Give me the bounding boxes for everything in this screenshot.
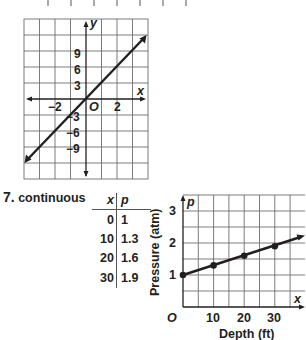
graph-2-x-title: Depth (ft) (219, 327, 275, 340)
graph-1-y-tick-9: 9 (74, 47, 81, 61)
header-x: x (92, 193, 117, 207)
header-p: p (117, 193, 151, 207)
graph-1: y x O −2 2 9 6 3 −3 −6 −9 (24, 16, 148, 179)
graph-1-y-tick-neg6: −6 (66, 126, 80, 140)
graph-1-x-tick-2: 2 (114, 100, 121, 114)
table-row: 30 1.9 (92, 268, 151, 287)
data-point-30 (272, 243, 279, 250)
cell-x: 20 (92, 251, 117, 265)
figure-canvas: y x O −2 2 9 6 3 −3 −6 −9 (0, 0, 305, 340)
graph-2-x-tick-30: 30 (267, 311, 281, 325)
graph-1-x-tick-neg2: −2 (48, 100, 62, 114)
cell-p: 1.9 (117, 271, 151, 285)
data-point-10 (210, 262, 217, 269)
graph-1-y-tick-6: 6 (74, 63, 81, 77)
graph-2-x-tick-20: 20 (237, 311, 251, 325)
graph-1-y-tick-neg9: −9 (66, 142, 80, 156)
table-divider (116, 193, 117, 288)
graph-2-x-axis-var: x (293, 292, 302, 306)
graph-1-x-axis-label: x (136, 84, 145, 98)
graph-2-y-axis-var: p (186, 195, 195, 209)
table-row: 20 1.6 (92, 249, 151, 268)
problem-label: 7. continuous (3, 189, 86, 205)
graph-2-origin-label: O (167, 311, 177, 325)
graph-1-origin-label: O (89, 100, 99, 114)
graph-1-y-tick-3: 3 (74, 79, 81, 93)
graph-1-y-axis-label: y (89, 16, 98, 30)
problem-answer: continuous (18, 191, 85, 205)
top-tick-marks (48, 0, 186, 6)
graph-2-y-tick-1: 1 (169, 268, 176, 282)
value-table: x p 0 1 10 1.3 20 1.6 30 1.9 (92, 191, 151, 287)
graph-2-grid (183, 195, 305, 307)
cell-x: 30 (92, 271, 117, 285)
graph-1-y-tick-neg3: −3 (66, 110, 80, 124)
table-header: x p (92, 191, 151, 210)
cell-p: 1 (117, 213, 151, 227)
cell-x: 10 (92, 232, 117, 246)
graph-2: p x O 10 20 30 1 2 3 Pressure (atm) Dept… (148, 195, 305, 340)
data-point-20 (241, 253, 248, 260)
graph-2-x-tick-10: 10 (206, 311, 220, 325)
cell-p: 1.6 (117, 251, 151, 265)
table-row: 10 1.3 (92, 229, 151, 248)
data-point-0 (180, 272, 187, 279)
table-row: 0 1 (92, 210, 151, 229)
graph-2-axes (181, 195, 306, 310)
graph-2-y-tick-2: 2 (169, 236, 176, 250)
graph-2-y-tick-3: 3 (169, 204, 176, 218)
problem-number: 7. (3, 189, 15, 205)
cell-x: 0 (92, 213, 117, 227)
cell-p: 1.3 (117, 232, 151, 246)
